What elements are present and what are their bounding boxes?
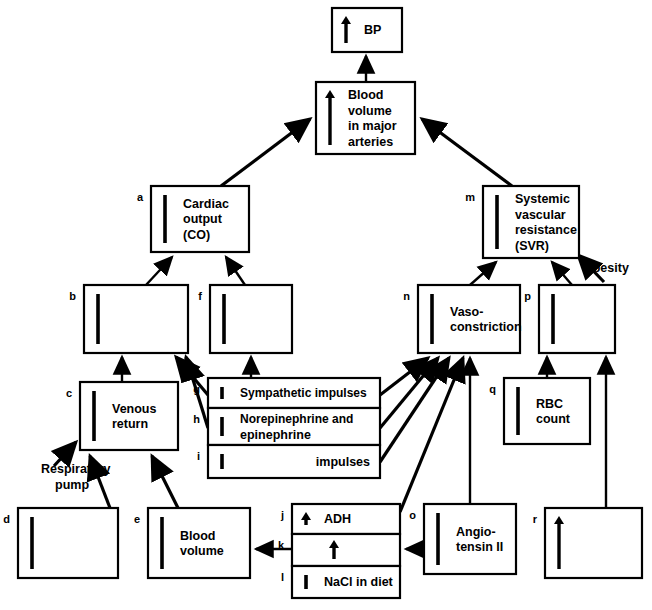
node-label-line: impulses <box>316 455 370 469</box>
node-label-line: in major <box>348 119 397 133</box>
node-label-line: return <box>112 417 148 431</box>
side-label-obesity: Obesity <box>583 261 629 275</box>
node-letter-c: c <box>66 387 72 399</box>
node-letter-r: r <box>533 513 538 525</box>
node-label-line: Blood <box>348 88 383 102</box>
node-h[interactable]: hNorepinephrine andepinephrine <box>193 408 380 445</box>
node-letter-k: k <box>278 539 285 551</box>
node-letter-h: h <box>193 413 200 425</box>
node-letter-f: f <box>198 290 202 302</box>
edge-f-to-co <box>226 257 245 285</box>
node-label-line: arteries <box>348 135 393 149</box>
node-letter-n: n <box>403 290 410 302</box>
node-label-line: tensin II <box>456 540 503 554</box>
node-svr[interactable]: mSystemicvascularresistance(SVR) <box>465 186 579 258</box>
node-q[interactable]: qRBCcount <box>489 378 590 444</box>
node-label-line: output <box>183 212 223 226</box>
edge-svr-to-bvma <box>422 119 512 186</box>
node-label-line: Systemic <box>515 192 570 206</box>
node-label-line: BP <box>364 23 381 37</box>
node-box <box>292 534 400 566</box>
node-letter-o: o <box>409 509 416 521</box>
node-label-line: volume <box>180 544 224 558</box>
node-r[interactable]: r <box>533 508 642 578</box>
node-label-line: Angio- <box>456 525 496 539</box>
node-label-line: ADH <box>324 512 351 526</box>
node-label-line: (SVR) <box>515 239 549 253</box>
node-label-line: Cardiac <box>183 197 229 211</box>
node-label-line: constriction <box>450 320 522 334</box>
node-label-line: epinephrine <box>240 428 311 442</box>
node-o[interactable]: oAngio-tensin II <box>409 504 516 574</box>
node-bp[interactable]: BP <box>332 8 402 52</box>
node-letter-p: p <box>524 290 531 302</box>
node-k[interactable]: k <box>278 534 400 566</box>
node-label-line: Sympathetic impulses <box>240 386 367 400</box>
edge-p-to-svr <box>552 262 572 285</box>
node-label-line: RBC <box>536 397 563 411</box>
node-f[interactable]: f <box>198 285 292 353</box>
node-p[interactable]: p <box>524 285 615 353</box>
node-i[interactable]: iimpulses <box>197 445 380 478</box>
edge-n-to-svr <box>470 262 496 285</box>
node-e[interactable]: eBloodvolume <box>134 508 250 578</box>
node-letter-b: b <box>69 290 76 302</box>
node-letter-j: j <box>280 509 284 521</box>
node-label-line: resistance <box>515 223 577 237</box>
node-n[interactable]: nVaso-constriction <box>403 285 521 353</box>
node-c[interactable]: cVenousreturn <box>66 382 178 450</box>
node-j[interactable]: jADH <box>280 504 400 534</box>
node-label-line: volume <box>348 104 392 118</box>
node-label-line: NaCl in diet <box>324 575 394 589</box>
edge-e-to-c <box>152 456 178 508</box>
node-letter-e: e <box>134 513 140 525</box>
edge-co-to-bvma <box>221 119 310 186</box>
concept-map-canvas: BPBloodvolumein majorarteriesaCardiacout… <box>0 0 652 610</box>
side-label-respiratory-pump: Respiratory <box>41 462 111 476</box>
edge-b-to-co <box>146 257 172 285</box>
node-label-line: (CO) <box>183 228 210 242</box>
node-letter-d: d <box>3 513 10 525</box>
node-letter-m: m <box>465 191 475 203</box>
node-label-line: Norepinephrine and <box>240 412 353 426</box>
node-bvma[interactable]: Bloodvolumein majorarteries <box>316 82 415 154</box>
node-g[interactable]: gSympathetic impulses <box>193 378 380 408</box>
node-letter-g: g <box>193 383 200 395</box>
edge-j-to-n <box>400 358 463 512</box>
side-label-respiratory-pump-2: pump <box>55 478 89 492</box>
node-b[interactable]: b <box>69 285 188 353</box>
edge-i-to-n <box>380 358 449 462</box>
node-layer: BPBloodvolumein majorarteriesaCardiacout… <box>3 8 642 598</box>
node-co[interactable]: aCardiacoutput(CO) <box>137 186 249 252</box>
node-d[interactable]: d <box>3 508 118 578</box>
node-label-line: Blood <box>180 529 215 543</box>
node-label-line: Venous <box>112 402 157 416</box>
node-letter-l: l <box>281 571 284 583</box>
node-label-line: count <box>536 412 571 426</box>
node-label-line: Vaso- <box>450 305 483 319</box>
node-letter-q: q <box>489 383 496 395</box>
node-letter-a: a <box>137 191 144 203</box>
node-box <box>539 285 615 353</box>
node-label-line: vascular <box>515 208 566 222</box>
node-letter-i: i <box>197 450 200 462</box>
node-l[interactable]: lNaCl in diet <box>281 566 400 598</box>
